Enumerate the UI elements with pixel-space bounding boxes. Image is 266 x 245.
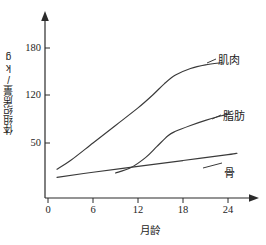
series-label-muscle: 肌肉 (218, 51, 240, 67)
chart-container: 180 120 50 0 6 12 18 24 月龄 体组织质量/kg 肌肉 脂… (0, 0, 266, 245)
y-tick-label-120: 120 (14, 89, 41, 100)
leader-line-muscle (207, 59, 216, 63)
series-label-fat: 脂肪 (223, 107, 245, 123)
x-tick-label-12: 12 (128, 204, 148, 215)
y-axis-title: 体组织质量/kg (1, 52, 16, 135)
x-tick-label-6: 6 (83, 204, 103, 215)
arrow-up-icon (41, 11, 49, 21)
leader-line-bone (203, 163, 222, 168)
series-label-bone: 骨 (224, 164, 235, 180)
leader-line-fat (212, 115, 221, 119)
y-tick-label-180: 180 (14, 42, 41, 53)
series-line-muscle (57, 63, 222, 170)
x-tick-label-0: 0 (38, 204, 58, 215)
y-tick-label-50: 50 (14, 137, 41, 148)
x-tick-label-18: 18 (173, 204, 193, 215)
x-tick-label-24: 24 (218, 204, 238, 215)
x-axis-title: 月龄 (140, 222, 160, 237)
series-line-fat (116, 114, 231, 173)
arrow-right-icon (249, 194, 259, 202)
